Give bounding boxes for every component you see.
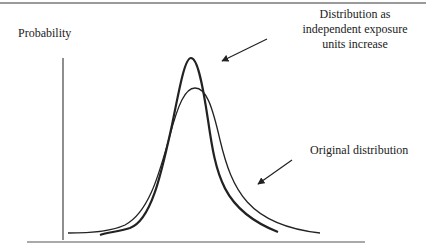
original-distribution-curve [68,88,320,233]
arrow-to-original-icon [258,160,292,184]
arrow-to-narrow-icon [222,39,267,61]
narrow-distribution-curve [100,58,278,235]
distribution-diagram [0,0,426,249]
